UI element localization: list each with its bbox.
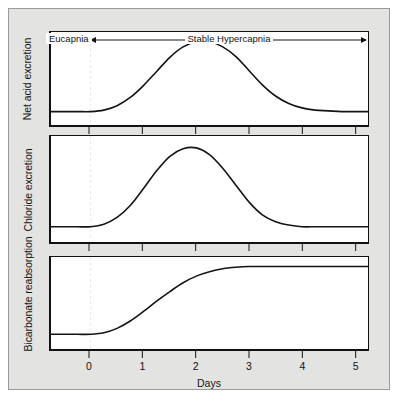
annotation-label-stable-hypercapnia: Stable Hypercapnia: [185, 33, 274, 44]
annotation-arrows: [9, 9, 391, 391]
figure-frame: Net acid excretion Chloride excretion Bi…: [8, 8, 390, 390]
annotation-label-eucapnia: Eucapnia: [46, 33, 92, 44]
